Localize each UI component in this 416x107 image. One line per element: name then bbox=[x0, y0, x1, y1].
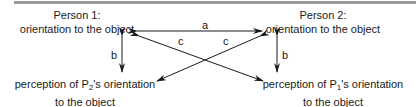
edge-a-label: a bbox=[202, 19, 208, 31]
edge-c-left-label: c bbox=[178, 35, 184, 47]
edge-b-left-label: b bbox=[111, 49, 117, 61]
arrows-layer bbox=[0, 0, 416, 107]
edge-c-right-label: c bbox=[223, 35, 229, 47]
edge-b-right-label: b bbox=[282, 49, 288, 61]
